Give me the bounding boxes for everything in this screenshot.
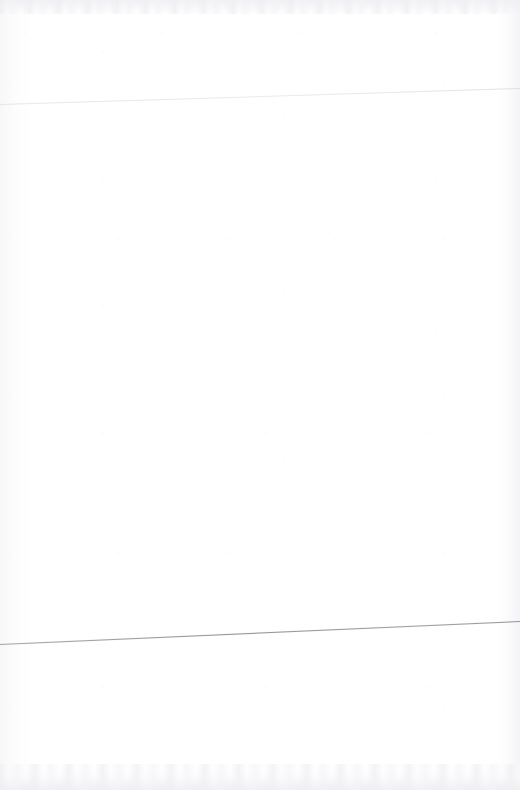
page-content-area bbox=[0, 104, 520, 644]
scanned-page bbox=[0, 0, 520, 790]
